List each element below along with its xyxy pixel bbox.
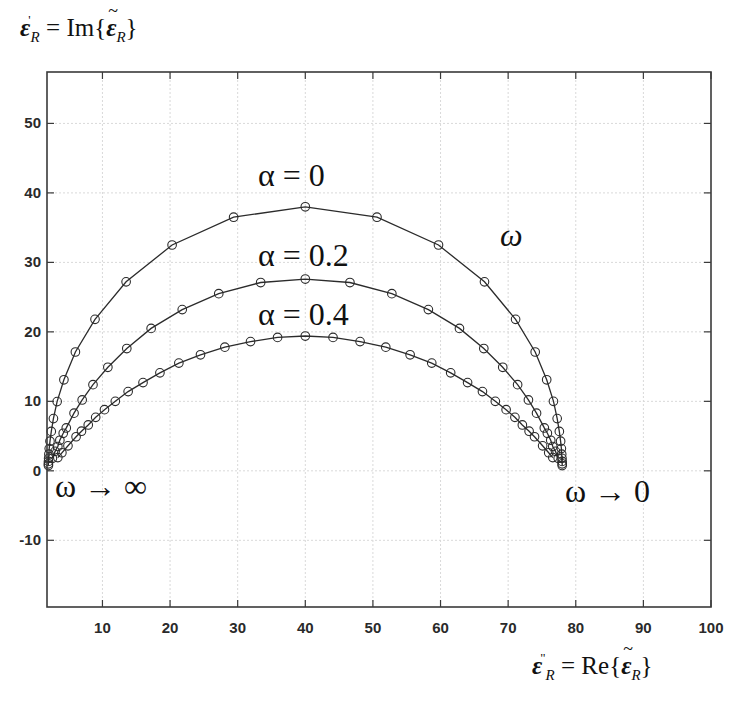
y-axis-func: Im	[66, 14, 94, 41]
x-tick-label: 30	[229, 619, 246, 636]
y-axis-title: ε'R = Im{εR}	[20, 12, 138, 46]
label-omega: ω	[500, 217, 523, 253]
x-tick-label: 100	[698, 619, 723, 636]
y-tick-label: 30	[24, 253, 41, 270]
x-axis-rhs-symbol: ε	[621, 652, 631, 680]
y-tick-label: -10	[19, 531, 41, 548]
close-brace: }	[126, 14, 138, 41]
x-tick-label: 50	[365, 619, 382, 636]
cole-cole-plot: 102030405060708090100-1001020304050 α = …	[0, 0, 739, 702]
x-axis-lhs-sub: R	[546, 667, 555, 683]
x-tick-label: 60	[432, 619, 449, 636]
label-alpha-0: α = 0	[258, 157, 325, 193]
grid-lines	[47, 72, 711, 607]
equals-sign: =	[46, 14, 60, 41]
x-tick-label: 10	[94, 619, 111, 636]
x-axis-rhs-sub: R	[631, 667, 640, 683]
label-omega-to-zero: ω → 0	[565, 473, 650, 509]
x-tick-label: 80	[567, 619, 584, 636]
x-axis-title: ε"R = Re{εR}	[532, 650, 653, 684]
open-brace: {	[94, 14, 106, 41]
annotations: α = 0α = 0.2α = 0.4ωω → ∞ω → 0	[55, 157, 650, 509]
open-brace: {	[609, 652, 621, 679]
label-omega-to-infinity: ω → ∞	[55, 468, 147, 504]
equals-sign: =	[561, 652, 575, 679]
x-axis-prime: "	[540, 650, 545, 665]
x-tick-label: 40	[297, 619, 314, 636]
label-alpha-0-2: α = 0.2	[258, 237, 349, 273]
y-axis-prime: '	[28, 12, 30, 27]
x-tick-label: 90	[635, 619, 652, 636]
y-tick-label: 40	[24, 184, 41, 201]
x-tick-label: 20	[162, 619, 179, 636]
axis-ticks: 102030405060708090100-1001020304050	[19, 72, 723, 636]
close-brace: }	[641, 652, 653, 679]
y-axis-rhs-sub: R	[116, 29, 125, 45]
y-tick-label: 20	[24, 323, 41, 340]
label-alpha-0-4: α = 0.4	[258, 296, 349, 332]
plot-frame	[47, 72, 711, 607]
x-axis-func: Re	[581, 652, 609, 679]
y-tick-label: 10	[24, 392, 41, 409]
y-tick-label: 50	[24, 114, 41, 131]
y-axis-rhs-symbol: ε	[106, 14, 116, 42]
y-axis-lhs-sub: R	[31, 29, 40, 45]
x-tick-label: 70	[500, 619, 517, 636]
y-tick-label: 0	[33, 462, 41, 479]
